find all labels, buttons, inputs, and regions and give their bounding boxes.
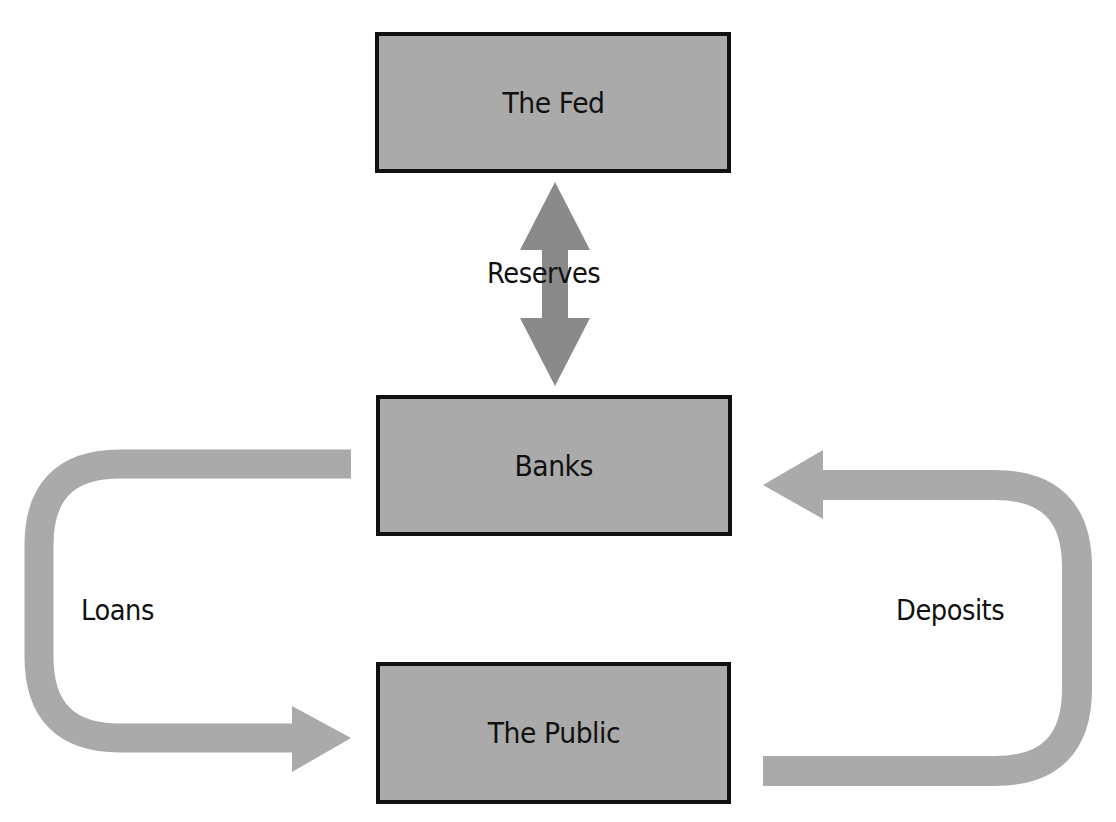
node-the-public-label: The Public <box>487 716 619 750</box>
node-banks: Banks <box>376 395 732 536</box>
edge-label-deposits: Deposits <box>896 594 1004 627</box>
edge-label-loans: Loans <box>81 594 154 627</box>
node-the-public: The Public <box>376 662 731 804</box>
money-flow-diagram: The Fed Banks The Public Reserves Loans … <box>0 0 1116 822</box>
node-banks-label: Banks <box>515 449 594 483</box>
edge-label-reserves: Reserves <box>487 257 600 290</box>
node-the-fed: The Fed <box>375 32 731 173</box>
node-the-fed-label: The Fed <box>502 86 604 120</box>
